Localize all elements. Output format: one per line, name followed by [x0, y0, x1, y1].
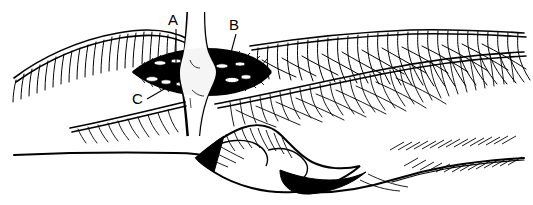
- illustration-canvas: A B C: [0, 0, 533, 205]
- label-b: B: [229, 16, 239, 33]
- label-a: A: [168, 11, 178, 28]
- illustration-figure: A B C: [0, 0, 533, 205]
- label-c: C: [132, 90, 143, 107]
